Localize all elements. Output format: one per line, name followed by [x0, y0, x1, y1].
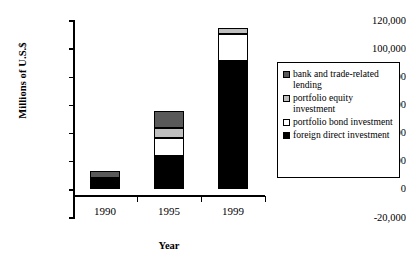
legend-item[interactable]: portfolio bond investment [283, 116, 395, 127]
bar-1990[interactable] [90, 189, 120, 190]
bar-segment-1999-0[interactable] [218, 61, 248, 189]
bar-segment-1995-2[interactable] [154, 128, 184, 138]
x-axis-tick-label: 1995 [139, 205, 199, 217]
legend-item-label: bank and trade-related lending [293, 68, 395, 90]
y-axis-tick-label: 100,000 [344, 44, 406, 55]
dark-gray-swatch [283, 71, 290, 78]
bar-segment-1995-0[interactable] [154, 156, 184, 189]
x-axis-tick [73, 196, 74, 202]
y-axis-title: Millions of U.S.$ [17, 21, 28, 141]
bar-segment-1999-2[interactable] [218, 28, 248, 34]
legend-item-label: portfolio bond investment [293, 116, 393, 127]
legend-item[interactable]: bank and trade-related lending [283, 68, 395, 90]
white-swatch [283, 119, 290, 126]
light-gray-swatch [283, 95, 290, 102]
bar-1999[interactable] [218, 189, 248, 190]
bar-segment-1990-3[interactable] [90, 171, 120, 177]
x-axis-tick [201, 196, 202, 202]
x-axis-tick-label: 1990 [75, 205, 135, 217]
stacked-bar-chart: Millions of U.S.$ 120,000100,00080,00060… [0, 0, 406, 269]
y-axis-tick-label: 0 [344, 184, 406, 195]
x-axis-title: Year [73, 240, 265, 251]
bar-segment-1990-0[interactable] [90, 178, 120, 189]
chart-legend: bank and trade-related lendingportfolio … [277, 62, 400, 178]
x-axis-tick [137, 196, 138, 202]
bar-segment-1995-3[interactable] [154, 111, 184, 127]
bar-1995[interactable] [154, 189, 184, 190]
y-axis-tick-label: 120,000 [344, 16, 406, 27]
plot-area [73, 21, 265, 218]
black-swatch [283, 132, 290, 139]
bar-segment-1999-1[interactable] [218, 34, 248, 61]
x-axis-tick [265, 196, 266, 202]
y-axis-tick-label: -20,000 [344, 213, 406, 224]
legend-item[interactable]: portfolio equity investment [283, 92, 395, 114]
legend-item-label: portfolio equity investment [293, 92, 395, 114]
x-axis-tick-label: 1999 [203, 205, 263, 217]
legend-item[interactable]: foreign direct investment [283, 129, 395, 140]
legend-item-label: foreign direct investment [293, 129, 389, 140]
bar-segment-1995-1[interactable] [154, 138, 184, 156]
